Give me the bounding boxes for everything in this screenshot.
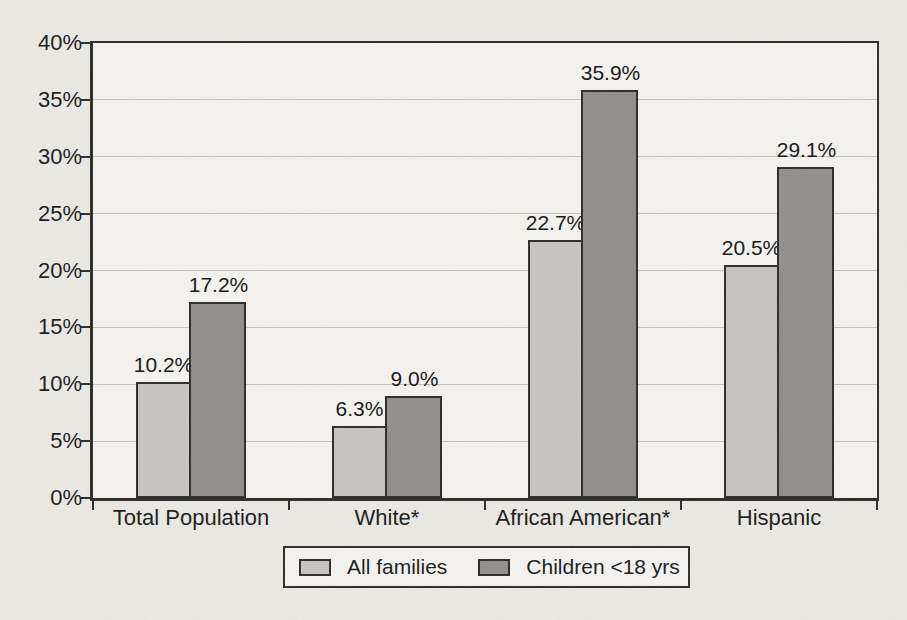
y-tick-30pct (81, 156, 93, 158)
y-tick-5pct (81, 440, 93, 442)
y-axis-label-35pct: 35% (0, 86, 82, 114)
bar-children-under-18-3 (777, 167, 834, 498)
y-tick-0pct (81, 497, 93, 499)
y-axis-label-0pct: 0% (0, 484, 82, 512)
x-axis-label-0: Total Population (113, 505, 270, 531)
x-axis-label-2: African American* (496, 505, 671, 531)
bar-value-label: 29.1% (777, 138, 837, 162)
gridline-35pct (93, 99, 877, 100)
plot-area: 10.2%17.2%6.3%9.0%22.7%35.9%20.5%29.1% (90, 41, 879, 501)
legend: All families Children <18 yrs (283, 546, 690, 588)
bar-value-label: 17.2% (189, 273, 249, 297)
y-axis-label-15pct: 15% (0, 313, 82, 341)
x-axis-label-1: White* (355, 505, 420, 531)
x-tick-3 (680, 501, 682, 510)
bar-all-families-1 (332, 426, 387, 498)
bar-children-under-18-0 (189, 302, 246, 498)
y-axis-label-30pct: 30% (0, 143, 82, 171)
bar-all-families-0 (136, 382, 191, 498)
bar-all-families-2 (528, 240, 583, 498)
bar-all-families-3 (724, 265, 779, 498)
x-tick-2 (484, 501, 486, 510)
y-axis-label-40pct: 40% (0, 29, 82, 57)
legend-swatch-children-under-18 (478, 559, 510, 576)
y-tick-10pct (81, 383, 93, 385)
gridline-25pct (93, 213, 877, 214)
x-tick-1 (288, 501, 290, 510)
bar-value-label: 22.7% (526, 211, 586, 235)
x-axis-label-3: Hispanic (737, 505, 821, 531)
bar-value-label: 6.3% (336, 397, 384, 421)
bar-value-label: 10.2% (134, 353, 194, 377)
legend-swatch-all-families (299, 559, 331, 576)
bar-value-label: 20.5% (722, 236, 782, 260)
y-axis-label-20pct: 20% (0, 257, 82, 285)
gridline-30pct (93, 156, 877, 157)
y-tick-15pct (81, 326, 93, 328)
y-tick-25pct (81, 213, 93, 215)
scanned-bar-chart-page: 10.2%17.2%6.3%9.0%22.7%35.9%20.5%29.1% 0… (0, 0, 907, 620)
legend-label-children-under-18: Children <18 yrs (526, 555, 680, 579)
bar-value-label: 35.9% (581, 61, 641, 85)
bar-children-under-18-1 (385, 396, 442, 498)
y-tick-35pct (81, 99, 93, 101)
bar-children-under-18-2 (581, 90, 638, 498)
y-axis-label-25pct: 25% (0, 200, 82, 228)
x-tick-4 (876, 501, 878, 510)
bar-value-label: 9.0% (391, 367, 439, 391)
y-axis-label-5pct: 5% (0, 427, 82, 455)
y-tick-20pct (81, 270, 93, 272)
y-tick-40pct (81, 42, 93, 44)
x-tick-0 (92, 501, 94, 510)
legend-label-all-families: All families (347, 555, 447, 579)
y-axis-label-10pct: 10% (0, 370, 82, 398)
